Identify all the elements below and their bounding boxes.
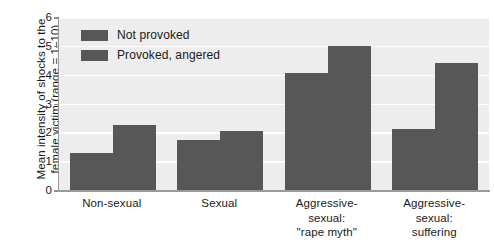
x-axis-tick-labels: Non-sexualSexualAggressive-sexual:"rape …: [58, 196, 488, 250]
x-axis-tick-label: Sexual: [166, 196, 274, 211]
legend-label: Not provoked: [117, 28, 190, 42]
x-axis-tick-label-line: Aggressive-: [381, 196, 489, 211]
y-axis-tickmark: [54, 161, 59, 163]
x-axis-tick-label: Non-sexual: [58, 196, 166, 211]
y-axis-tickmark: [54, 75, 59, 77]
legend: Not provoked Provoked, angered: [81, 25, 220, 65]
x-axis-tick-label-line: sexual:: [273, 211, 381, 226]
plot-area: Not provoked Provoked, angered: [58, 17, 489, 190]
y-axis-tick-label: 1: [30, 155, 52, 167]
y-axis-tick-label: 0: [30, 184, 52, 196]
y-axis-tick-labels: 0123456: [26, 0, 52, 250]
bar: [113, 125, 156, 190]
bar: [220, 131, 263, 190]
y-axis-tickmark: [54, 46, 59, 48]
x-axis-tick-label: Aggressive-sexual:suffering: [381, 196, 489, 240]
y-axis-tickmark: [54, 132, 59, 134]
gridline: [59, 75, 489, 77]
x-axis-tick-label-line: Non-sexual: [58, 196, 166, 211]
y-axis-tick-label: 2: [30, 126, 52, 138]
y-axis-tickmark: [54, 17, 59, 19]
bar-chart-figure: Mean intensity of shocks to the female v…: [0, 0, 494, 250]
legend-swatch-icon: [81, 30, 108, 41]
bar: [285, 73, 328, 190]
y-axis-tick-label: 6: [30, 11, 52, 23]
legend-swatch-icon: [81, 50, 108, 61]
y-axis-tick-label: 4: [30, 69, 52, 81]
legend-item-not-provoked: Not provoked: [81, 25, 220, 45]
x-axis-tick-label-line: Aggressive-: [273, 196, 381, 211]
x-axis-tick-label-line: "rape myth": [273, 225, 381, 240]
bar: [392, 129, 435, 190]
x-axis-line: [58, 190, 490, 192]
bar: [435, 63, 478, 190]
x-axis-tick-label-line: suffering: [381, 225, 489, 240]
bar: [70, 153, 113, 190]
x-axis-tick-label-line: sexual:: [381, 211, 489, 226]
bar: [328, 46, 371, 190]
x-axis-tick-label: Aggressive-sexual:"rape myth": [273, 196, 381, 240]
legend-item-provoked-angered: Provoked, angered: [81, 45, 220, 65]
y-axis-tick-label: 3: [30, 98, 52, 110]
gridline: [59, 17, 489, 19]
x-axis-tick-label-line: Sexual: [166, 196, 274, 211]
bar: [177, 140, 220, 190]
y-axis-tick-label: 5: [30, 40, 52, 52]
legend-label: Provoked, angered: [117, 48, 220, 62]
y-axis-tickmark: [54, 104, 59, 106]
gridline: [59, 104, 489, 106]
